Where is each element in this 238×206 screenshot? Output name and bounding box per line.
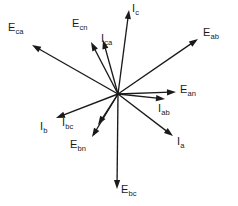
phasor-label-base: E bbox=[8, 21, 16, 33]
arrowhead-e-bn bbox=[92, 128, 99, 137]
phasor-label-e-cn: Ecn bbox=[72, 18, 88, 29]
phasor-shaft-i-c bbox=[118, 16, 128, 94]
phasor-label-i-a: Ia bbox=[177, 136, 185, 147]
phasor-label-subscript: c bbox=[135, 8, 139, 17]
phasor-label-e-bc: Ebc bbox=[121, 184, 137, 195]
phasor-label-base: E bbox=[121, 183, 129, 195]
phasor-label-e-bn: Ebn bbox=[70, 139, 86, 150]
phasor-label-e-ca: Eca bbox=[8, 22, 24, 33]
phasor-label-i-c: Ic bbox=[132, 3, 139, 14]
arrowhead-e-an bbox=[167, 89, 176, 95]
phasor-label-subscript: bc bbox=[65, 122, 73, 131]
phasor-label-base: E bbox=[180, 83, 188, 95]
phasor-label-subscript: ca bbox=[16, 27, 24, 36]
arrowhead-e-cn bbox=[91, 42, 98, 51]
phasor-shaft-i-b bbox=[61, 94, 118, 116]
arrowhead-e-ab bbox=[189, 39, 198, 47]
phasor-label-subscript: an bbox=[188, 89, 196, 98]
phasor-label-subscript: b bbox=[43, 126, 47, 135]
arrowhead-e-ca bbox=[32, 45, 41, 52]
phasor-label-subscript: bc bbox=[129, 189, 137, 198]
arrowhead-i-c bbox=[125, 10, 131, 19]
arrowhead-i-a bbox=[164, 128, 173, 136]
phasor-label-base: E bbox=[72, 17, 80, 29]
phasor-label-subscript: bn bbox=[78, 144, 86, 153]
phasor-shaft-i-ab bbox=[118, 94, 159, 98]
phasor-label-i-ab: Iab bbox=[158, 103, 170, 114]
phasor-label-subscript: a bbox=[180, 141, 184, 150]
phasor-label-base: E bbox=[70, 138, 78, 150]
phasor-label-subscript: cn bbox=[80, 23, 88, 32]
phasor-label-subscript: ca bbox=[104, 38, 112, 47]
phasor-label-i-bc: Ibc bbox=[62, 117, 73, 128]
phasor-label-e-an: Ean bbox=[180, 84, 196, 95]
phasor-label-i-ca: Ica bbox=[101, 33, 112, 44]
arrowhead-i-ab bbox=[156, 95, 165, 101]
phasor-label-subscript: ab bbox=[161, 108, 169, 117]
phasor-shaft-e-an bbox=[118, 92, 170, 94]
arrowhead-e-bc bbox=[114, 180, 120, 189]
phasor-label-base: E bbox=[203, 26, 211, 38]
phasor-label-subscript: ab bbox=[211, 32, 219, 41]
phasor-shaft-e-bc bbox=[117, 94, 118, 183]
phasor-diagram: EcaEcnIcaIcEabEanIabIaEbcEbnIbcIb bbox=[0, 0, 238, 206]
phasor-label-e-ab: Eab bbox=[203, 27, 219, 38]
phasor-label-i-b: Ib bbox=[40, 121, 48, 132]
